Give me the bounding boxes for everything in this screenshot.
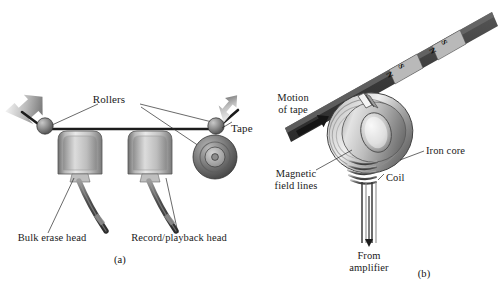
- label-bulk-erase-head: Bulk erase head: [6, 232, 98, 243]
- panel-a-tag: (a): [90, 254, 150, 265]
- label-magnetic-field-lines-line2: field lines: [260, 180, 332, 191]
- coil-leader: [378, 174, 384, 180]
- label-motion-of-tape-line1: Motion: [266, 92, 320, 103]
- label-motion-of-tape-line2: of tape: [266, 104, 320, 115]
- record-playback-head: [128, 131, 176, 231]
- tape-domain-1: [389, 54, 423, 84]
- label-tape: Tape: [231, 123, 253, 135]
- label-iron-core: Iron core: [426, 145, 465, 156]
- tape-path: [22, 110, 238, 129]
- roller-left: [37, 118, 53, 134]
- label-magnetic-field-lines-line1: Magnetic: [264, 168, 328, 179]
- bulk-erase-head: [58, 131, 106, 231]
- rollers-leader-left: [52, 104, 98, 125]
- rollers-leader-right: [140, 104, 212, 122]
- label-rollers: Rollers: [78, 94, 140, 106]
- panel-b-tag: (b): [404, 268, 444, 279]
- label-coil: Coil: [386, 172, 405, 183]
- label-from-amplifier-line1: From: [340, 250, 398, 261]
- panel-a-diagram: [5, 86, 243, 233]
- magnetic-tape-recording-figure: [0, 0, 498, 288]
- roller-right: [208, 118, 224, 134]
- bulk-erase-head-leader: [48, 178, 74, 233]
- amplifier-leads: [362, 182, 376, 247]
- supply-reel: [193, 135, 237, 179]
- panel-b-diagram: [285, 12, 498, 247]
- tape-domain-2: [432, 30, 466, 60]
- label-from-amplifier-line2: amplifier: [332, 262, 406, 273]
- label-record-playback-head: Record/playback head: [115, 232, 243, 243]
